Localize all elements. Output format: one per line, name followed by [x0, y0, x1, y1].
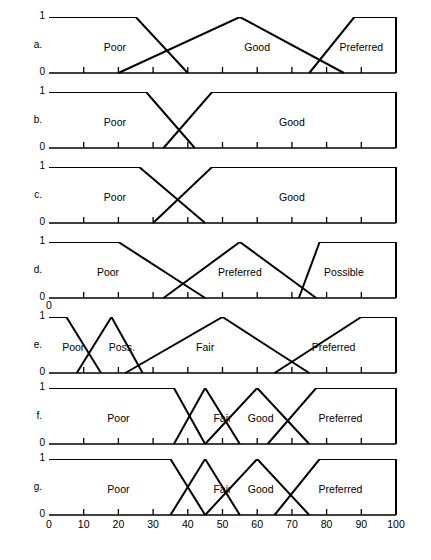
x-axis-tick-label-80: 80 [321, 518, 333, 530]
x-axis-tick-label-0: 0 [46, 518, 52, 530]
set-label-e-preferred: Preferred [312, 341, 356, 353]
membership-curve-d-poor [49, 242, 205, 298]
plot-c: PoorGood [0, 167, 431, 233]
x-axis-tick-label-90: 90 [355, 518, 367, 530]
x-axis-tick-label-20: 20 [113, 518, 125, 530]
set-label-f-poor: Poor [107, 412, 130, 424]
set-label-g-fair: Fair [213, 483, 232, 495]
membership-curve-e-fair [125, 317, 309, 373]
plot-e: PoorPoss.FairPreferred [0, 317, 431, 383]
x-axis-tick-label-60: 60 [251, 518, 263, 530]
x-axis-zero-label-panel-d: 0 [46, 299, 52, 311]
plot-d: PoorPreferredPossible [0, 242, 431, 308]
set-label-e-poor: Poor [62, 341, 85, 353]
set-label-d-poor: Poor [97, 266, 120, 278]
fuzzy-membership-figure: a.10PoorGoodPreferredb.10PoorGoodc.10Poo… [0, 0, 431, 560]
membership-curve-a-good [118, 17, 344, 73]
set-label-g-preferred: Preferred [319, 483, 363, 495]
x-axis-tick-label-10: 10 [78, 518, 90, 530]
x-axis-tick-label-70: 70 [286, 518, 298, 530]
plot-a: PoorGoodPreferred [0, 17, 431, 83]
x-axis-tick-label-30: 30 [147, 518, 159, 530]
set-label-f-good: Good [248, 412, 274, 424]
x-axis-tick-label-40: 40 [182, 518, 194, 530]
set-label-b-good: Good [279, 116, 305, 128]
plot-b: PoorGood [0, 92, 431, 158]
set-label-d-possible: Possible [324, 266, 364, 278]
set-label-c-poor: Poor [104, 191, 127, 203]
set-label-a-preferred: Preferred [339, 41, 383, 53]
set-label-g-poor: Poor [107, 483, 130, 495]
set-label-g-good: Good [248, 483, 274, 495]
set-label-a-good: Good [244, 41, 270, 53]
set-label-f-fair: Fair [213, 412, 232, 424]
plot-g: PoorFairGoodPreferred [0, 459, 431, 525]
plot-f: PoorFairGoodPreferred [0, 388, 431, 454]
set-label-f-preferred: Preferred [319, 412, 363, 424]
membership-curve-c-good [153, 167, 396, 223]
set-label-d-preferred: Preferred [218, 266, 262, 278]
set-label-b-poor: Poor [104, 116, 127, 128]
set-label-a-poor: Poor [104, 41, 127, 53]
set-label-c-good: Good [279, 191, 305, 203]
x-axis-tick-label-50: 50 [217, 518, 229, 530]
x-axis-tick-label-100: 100 [387, 518, 405, 530]
x-axis-tick-labels: 0102030405060708090100 [0, 518, 431, 534]
set-label-e-fair: Fair [196, 341, 215, 353]
set-label-e-poss: Poss. [109, 341, 135, 353]
